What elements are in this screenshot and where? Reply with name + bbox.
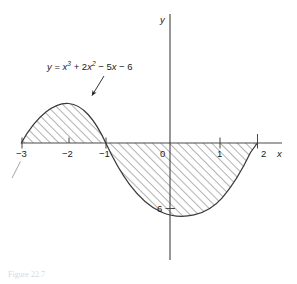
x-tick-label-0: 0 — [160, 149, 165, 159]
equation-term1-exponent: 3 — [67, 60, 71, 67]
equation-term3-base: x — [112, 61, 117, 72]
x-tick-label-2: 2 — [261, 149, 266, 159]
root-leader-line — [12, 162, 21, 179]
figure-caption: Figure 22.7 — [8, 270, 45, 279]
equation-operator3: − — [119, 61, 125, 72]
x-tick-label-neg1: −1 — [99, 149, 110, 159]
y-intercept-label-6: 6 — [157, 204, 162, 214]
x-tick-label-neg2: −2 — [62, 149, 73, 159]
equation-operator2: − — [98, 61, 104, 72]
cubic-function-graph — [0, 0, 297, 284]
equation-label: y = x3 + 2x2 − 5x − 6 — [47, 61, 133, 72]
equation-lhs: y — [47, 61, 52, 72]
x-tick-label-neg3: −3 — [16, 149, 27, 159]
x-axis-label: x — [277, 149, 282, 159]
equation-constant: 6 — [127, 61, 132, 72]
shaded-region-negative — [106, 143, 258, 216]
x-tick-label-1: 1 — [217, 149, 222, 159]
y-axis-label: y — [160, 15, 165, 25]
equation-term2-exponent: 2 — [92, 60, 96, 67]
equation-operator1: + — [74, 61, 80, 72]
equation-equals: = — [54, 61, 60, 72]
equation-leader-line — [92, 76, 104, 96]
figure-container: y = x3 + 2x2 − 5x − 6 y x −3 −2 −1 0 1 2… — [0, 0, 297, 284]
